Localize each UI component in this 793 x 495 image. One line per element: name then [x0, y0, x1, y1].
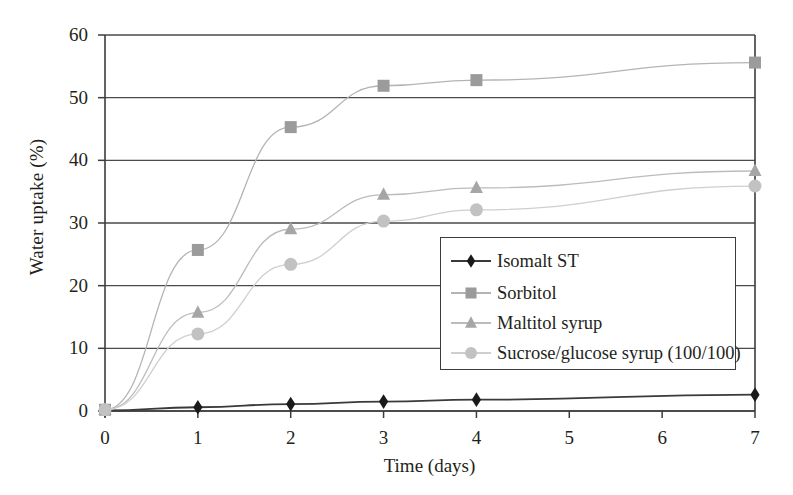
- circle-marker-icon: [470, 203, 483, 216]
- diamond-marker-icon: [472, 392, 481, 407]
- legend-marker: [449, 343, 493, 363]
- y-tick-label: 0: [48, 401, 88, 420]
- x-tick-label: 7: [740, 428, 770, 447]
- triangle-marker-icon: [191, 305, 204, 317]
- square-marker-icon: [192, 244, 204, 256]
- legend-item[interactable]: Sucrose/glucose syrup (100/100): [449, 338, 741, 368]
- diamond-marker-icon: [750, 387, 759, 402]
- circle-marker-icon: [99, 403, 112, 416]
- diamond-marker-icon: [286, 397, 295, 412]
- chart-legend: Isomalt STSorbitolMaltitol syrupSucrose/…: [440, 237, 736, 370]
- y-tick-label: 40: [48, 150, 88, 169]
- triangle-marker-icon: [465, 316, 477, 327]
- diamond-marker-icon: [193, 400, 202, 415]
- triangle-marker-icon: [284, 222, 297, 234]
- x-tick-label: 3: [369, 428, 399, 447]
- y-tick-label: 60: [48, 25, 88, 44]
- y-tick-label: 10: [48, 338, 88, 357]
- square-marker-icon: [470, 74, 482, 86]
- y-tick-label: 50: [48, 88, 88, 107]
- y-tick-label: 30: [48, 213, 88, 232]
- legend-label: Sorbitol: [493, 283, 557, 304]
- square-marker-icon: [285, 121, 297, 133]
- x-tick-label: 6: [647, 428, 677, 447]
- y-tick-label: 20: [48, 276, 88, 295]
- diamond-marker-icon: [379, 394, 388, 409]
- triangle-marker-icon: [470, 180, 483, 192]
- legend-label: Isomalt ST: [493, 251, 579, 272]
- diamond-marker-icon: [449, 251, 493, 271]
- square-marker-icon: [378, 80, 390, 92]
- circle-marker-icon: [749, 180, 762, 193]
- series-line: [105, 395, 755, 411]
- legend-marker: [449, 313, 493, 333]
- square-marker-icon: [749, 57, 761, 69]
- legend-item[interactable]: Sorbitol: [449, 278, 557, 308]
- legend-marker: [449, 283, 493, 303]
- legend-label: Maltitol syrup: [493, 313, 602, 334]
- circle-marker-icon: [191, 327, 204, 340]
- x-axis-label-text: Time (days): [384, 455, 476, 476]
- circle-marker-icon: [284, 258, 297, 271]
- x-tick-label: 4: [461, 428, 491, 447]
- square-marker-icon: [449, 283, 493, 303]
- x-tick-label: 5: [554, 428, 584, 447]
- y-axis-ticks: 6050403020100: [48, 0, 88, 495]
- diamond-marker-icon: [467, 254, 475, 268]
- x-tick-label: 1: [183, 428, 213, 447]
- triangle-marker-icon: [377, 187, 390, 199]
- legend-marker: [449, 251, 493, 271]
- x-axis-label: Time (days): [0, 455, 793, 477]
- x-axis-ticks: 01234567: [0, 422, 793, 452]
- y-axis-label: Water uptake (%): [26, 107, 48, 307]
- circle-marker-icon: [449, 343, 493, 363]
- circle-marker-icon: [465, 347, 477, 359]
- circle-marker-icon: [377, 215, 390, 228]
- x-tick-label: 2: [276, 428, 306, 447]
- chart-figure: Water uptake (%) Time (days) 60504030201…: [0, 0, 793, 495]
- square-marker-icon: [465, 287, 476, 298]
- triangle-marker-icon: [749, 164, 762, 176]
- legend-item[interactable]: Maltitol syrup: [449, 308, 602, 338]
- triangle-marker-icon: [449, 313, 493, 333]
- legend-label: Sucrose/glucose syrup (100/100): [493, 343, 741, 364]
- x-tick-label: 0: [90, 428, 120, 447]
- legend-item[interactable]: Isomalt ST: [449, 246, 579, 276]
